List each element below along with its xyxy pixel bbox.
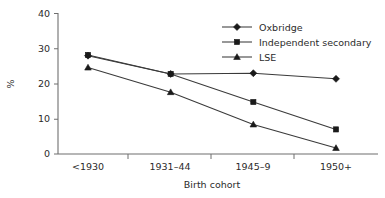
- x-axis-title: Birth cohort: [184, 179, 241, 190]
- legend-label-oxbridge: Oxbridge: [259, 22, 303, 33]
- series-lse: [85, 64, 340, 150]
- data-point: [251, 99, 256, 104]
- legend-label-lse: LSE: [259, 52, 276, 63]
- y-tick-label-30: 30: [38, 43, 50, 54]
- data-point: [333, 127, 338, 132]
- series-line: [88, 56, 336, 79]
- legend-entry-lse[interactable]: LSE: [222, 52, 276, 63]
- y-tick-label-10: 10: [38, 113, 50, 124]
- x-tick-label-0: <1930: [72, 161, 104, 172]
- y-tick-label-40: 40: [38, 8, 50, 19]
- series-line: [88, 55, 336, 129]
- legend-label-independent-secondary: Independent secondary: [259, 37, 372, 48]
- legend: Oxbridge Independent secondary LSE: [222, 22, 372, 63]
- data-point: [333, 75, 340, 82]
- y-axis-title: %: [5, 79, 16, 88]
- series-independent-secondary: [85, 52, 338, 132]
- square-icon: [234, 39, 239, 44]
- series-line: [88, 68, 336, 148]
- line-chart: % 40 30 20 10 0 <1930 1931–44 1945–9 195…: [0, 0, 385, 198]
- x-tick-label-1: 1931–44: [149, 161, 190, 172]
- series-layer: [85, 52, 340, 150]
- x-tick-label-2: 1945–9: [236, 161, 271, 172]
- diamond-icon: [234, 24, 241, 31]
- legend-entry-independent-secondary[interactable]: Independent secondary: [222, 37, 372, 48]
- data-point: [250, 70, 257, 77]
- y-tick-label-20: 20: [38, 78, 50, 89]
- legend-entry-oxbridge[interactable]: Oxbridge: [222, 22, 303, 33]
- chart-container: % 40 30 20 10 0 <1930 1931–44 1945–9 195…: [0, 0, 385, 198]
- y-tick-label-0: 0: [44, 148, 50, 159]
- x-tick-label-3: 1950+: [320, 161, 352, 172]
- data-point: [85, 52, 90, 57]
- data-point: [168, 71, 173, 76]
- data-point: [85, 64, 92, 70]
